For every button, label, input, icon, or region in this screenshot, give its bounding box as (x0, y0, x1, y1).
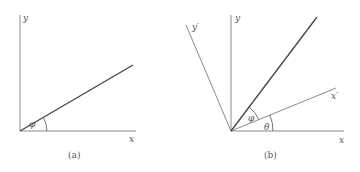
caption-a: (a) (68, 150, 80, 160)
panel-a: φ x y (a) (20, 13, 136, 160)
vector-line (20, 65, 133, 131)
phi-label: φ (248, 113, 255, 123)
theta-arc (270, 115, 273, 131)
x-axis-label: x (339, 135, 344, 145)
rotation-diagram: φ x y (a) φ θ x y x′ y′ (b) (0, 0, 360, 172)
y-prime-label: y′ (191, 22, 199, 32)
phi-label: φ (29, 119, 36, 129)
x-prime-label: x′ (331, 91, 338, 101)
panel-b: φ θ x y x′ y′ (b) (186, 13, 344, 160)
y-axis-label: y (22, 13, 29, 23)
y-axis-label: y (234, 13, 241, 23)
phi-arc (43, 117, 47, 131)
x-axis-label: x (129, 134, 134, 144)
y-prime-axis (186, 25, 231, 131)
caption-b: (b) (264, 150, 277, 160)
theta-label: θ (264, 122, 270, 132)
